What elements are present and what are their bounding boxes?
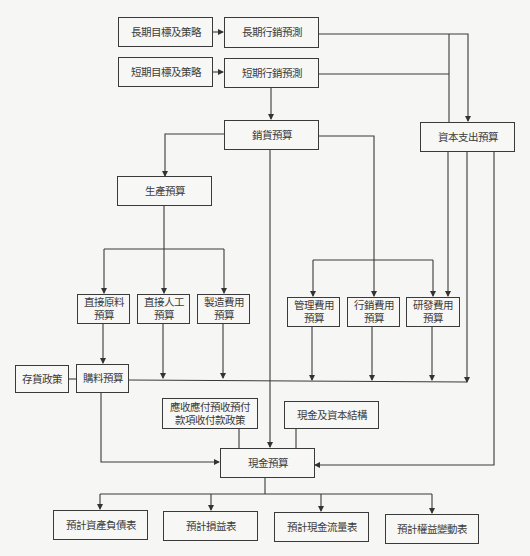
node-short-term-goals: 短期目標及策略 — [118, 57, 213, 87]
node-label: 存貨政策 — [22, 373, 62, 386]
node-pro-forma-cash-flow: 預計現金流量表 — [274, 512, 369, 542]
node-label-line2: 預算 — [84, 309, 124, 322]
node-label-line1: 直接人工 — [144, 296, 184, 309]
node-purchase-budget: 購料預算 — [76, 364, 129, 393]
node-label: 預計現金流量表 — [287, 521, 357, 534]
node-cash-budget: 現金預算 — [220, 448, 315, 478]
node-label-line2: 款項收付款政策 — [170, 414, 250, 427]
node-pro-forma-income-statement: 預計損益表 — [163, 511, 258, 541]
node-ar-ap-policy: 應收應付預收預付款項收付款政策 — [162, 398, 258, 429]
node-label-line1: 製造費用 — [204, 296, 244, 309]
node-label-line1: 研發費用 — [413, 299, 453, 312]
node-production-budget: 生產預算 — [117, 176, 212, 206]
node-label-line1: 行銷費用 — [354, 299, 394, 312]
node-cash-capital-structure: 現金及資本結構 — [284, 401, 379, 429]
node-label: 現金及資本結構 — [297, 409, 367, 422]
node-direct-labor-budget: 直接人工預算 — [137, 294, 190, 324]
node-label: 短期目標及策略 — [131, 66, 201, 79]
node-label: 預計權益變動表 — [397, 523, 467, 536]
node-label-line1: 管理費用 — [294, 299, 334, 312]
node-label: 長期行銷預測 — [242, 26, 302, 39]
node-pro-forma-balance-sheet: 預計資產負債表 — [53, 510, 148, 540]
node-inventory-policy: 存貨政策 — [15, 365, 69, 393]
node-rd-expense-budget: 研發費用預算 — [406, 297, 460, 327]
node-sales-budget: 銷貨預算 — [224, 120, 319, 150]
node-long-term-goals: 長期目標及策略 — [118, 17, 213, 47]
node-label: 購料預算 — [83, 372, 123, 385]
node-manufacturing-overhead-budget: 製造費用預算 — [197, 294, 250, 324]
node-label-line2: 預算 — [294, 312, 334, 325]
node-short-term-sales-forecast: 短期行銷預測 — [224, 58, 319, 88]
node-label: 生產預算 — [145, 185, 185, 198]
node-label-line1: 應收應付預收預付 — [170, 401, 250, 414]
node-pro-forma-equity-changes: 預計權益變動表 — [385, 514, 479, 544]
node-admin-expense-budget: 管理費用預算 — [287, 297, 340, 327]
node-label: 預計資產負債表 — [66, 519, 136, 532]
budget-structure-diagram: 長期目標及策略 長期行銷預測 短期目標及策略 短期行銷預測 銷貨預算 資本支出預… — [0, 0, 530, 556]
node-label-line2: 預算 — [354, 312, 394, 325]
node-label: 短期行銷預測 — [242, 67, 302, 80]
node-label-line2: 預算 — [413, 312, 453, 325]
node-long-term-sales-forecast: 長期行銷預測 — [224, 17, 319, 48]
node-label: 長期目標及策略 — [131, 26, 201, 39]
node-label: 銷貨預算 — [252, 129, 292, 142]
node-label-line2: 預算 — [144, 309, 184, 322]
node-selling-expense-budget: 行銷費用預算 — [347, 297, 400, 327]
node-direct-material-budget: 直接原料預算 — [77, 294, 130, 324]
node-label-line2: 預算 — [204, 309, 244, 322]
node-label-line1: 直接原料 — [84, 296, 124, 309]
node-capital-expenditure-budget: 資本支出預算 — [420, 122, 515, 152]
node-label: 資本支出預算 — [438, 131, 498, 144]
node-label: 預計損益表 — [186, 520, 236, 533]
node-label: 現金預算 — [248, 457, 288, 470]
